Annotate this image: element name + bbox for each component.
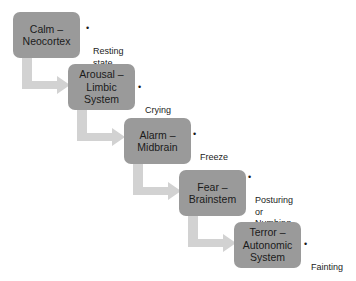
- arrow-arousal-to-alarm: [77, 108, 125, 146]
- bullet-dot-icon: •: [304, 239, 307, 251]
- stage-label-alarm: Alarm – Midbrain: [137, 129, 177, 154]
- stage-box-terror[interactable]: Terror – Autonomic System: [234, 222, 301, 268]
- stage-box-arousal[interactable]: Arousal – Limbic System: [68, 64, 135, 110]
- bullet-dot-icon: •: [248, 172, 251, 184]
- stage-label-arousal: Arousal – Limbic System: [79, 68, 123, 106]
- stage-label-fear: Fear – Brainstem: [189, 181, 236, 206]
- bullet-dot-icon: •: [86, 23, 89, 35]
- stage-note-alarm: • Freeze: [193, 129, 245, 175]
- stage-note-terror: • Fainting: [304, 239, 356, 281]
- stage-box-calm[interactable]: Calm – Neocortex: [13, 12, 80, 58]
- arrow-fear-to-terror: [188, 214, 236, 252]
- stage-label-terror: Terror – Autonomic System: [243, 226, 293, 264]
- stage-note-text-alarm: Freeze: [200, 152, 245, 164]
- arrow-alarm-to-fear: [133, 162, 181, 200]
- arrow-calm-to-arousal: [22, 56, 70, 94]
- bullet-dot-icon: •: [138, 82, 141, 94]
- stage-label-calm: Calm – Neocortex: [23, 23, 71, 48]
- bullet-dot-icon: •: [193, 129, 196, 141]
- stage-box-fear[interactable]: Fear – Brainstem: [179, 170, 246, 216]
- stage-note-text-arousal: Crying: [145, 105, 190, 117]
- stage-note-text-terror: Fainting: [311, 262, 356, 274]
- stage-box-alarm[interactable]: Alarm – Midbrain: [124, 118, 191, 164]
- arousal-continuum-diagram: Calm – Neocortex • Resting state Arousal…: [0, 0, 356, 281]
